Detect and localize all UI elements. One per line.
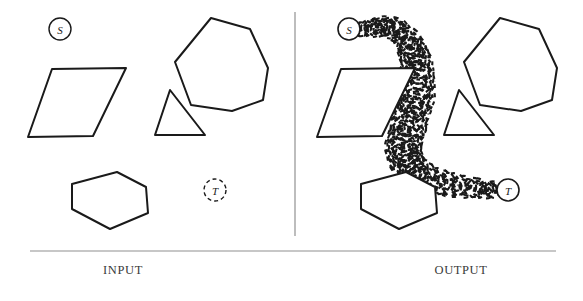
goal-marker-label-output: T (505, 185, 512, 197)
obstacle-parallelogram-input (28, 68, 126, 137)
panel-caption-input: INPUT (103, 263, 143, 278)
start-marker-output: S (338, 18, 360, 40)
panel-input: S T (28, 18, 268, 229)
obstacle-triangle-input (155, 90, 205, 135)
motion-planning-figure: S T S T (0, 0, 583, 301)
figure-canvas: S T S T (0, 0, 583, 301)
start-marker-input: S (49, 18, 71, 40)
goal-marker-input: T (204, 179, 226, 201)
obstacle-heptagon-output (464, 18, 557, 111)
obstacle-pentagon-input (72, 172, 148, 229)
output-obstacle-group (317, 18, 557, 229)
panel-caption-output: OUTPUT (435, 263, 488, 278)
start-marker-label-output: S (346, 24, 352, 36)
goal-marker-label-input: T (212, 185, 219, 197)
goal-marker-output: T (497, 179, 519, 201)
input-obstacle-group (28, 18, 268, 229)
obstacle-pentagon-output (361, 172, 437, 229)
start-marker-label-input: S (57, 24, 63, 36)
obstacle-heptagon-input (175, 18, 268, 111)
panel-output: S T (317, 16, 557, 229)
